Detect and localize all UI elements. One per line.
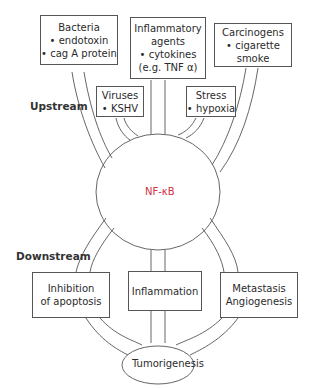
box-line: Inhibition	[48, 282, 95, 295]
box-line: Metastasis	[232, 282, 285, 295]
box-line: of apoptosis	[41, 295, 102, 308]
box-line: (e.g. TNF α)	[139, 61, 198, 74]
box-line: Carcinogens	[222, 26, 284, 39]
upstream-label: Upstream	[30, 100, 88, 112]
box-line: • hypoxia	[187, 102, 235, 115]
box-line: • cytokines	[140, 48, 197, 61]
downstream-label: Downstream	[16, 250, 91, 262]
tumorigenesis-label: Tumorigenesis	[132, 358, 204, 369]
box-line: Stress	[196, 89, 227, 102]
stress-box: Stress • hypoxia	[186, 86, 236, 117]
box-line: agents	[151, 35, 185, 48]
inflammatory-agents-box: Inflammatory agents • cytokines (e.g. TN…	[130, 17, 206, 79]
box-line: • endotoxin	[50, 34, 109, 47]
metastasis-angiogenesis-box: Metastasis Angiogenesis	[220, 272, 298, 318]
bacteria-box: Bacteria • endotoxin • cag A protein	[40, 15, 118, 65]
box-line: Viruses	[102, 89, 138, 102]
viruses-box: Viruses • KSHV	[96, 86, 144, 117]
box-line: • KSHV	[102, 102, 138, 115]
box-line: • cag A protein	[41, 47, 117, 60]
inhibition-of-apoptosis-box: Inhibition of apoptosis	[32, 272, 110, 318]
box-line: Inflammatory	[134, 22, 201, 35]
nfkb-label: NF-κB	[145, 186, 175, 197]
box-line: Inflammation	[132, 285, 198, 298]
carcinogens-box: Carcinogens • cigarette smoke	[214, 23, 292, 67]
box-line: smoke	[237, 52, 270, 65]
box-line: Angiogenesis	[226, 295, 293, 308]
box-line: • cigarette	[226, 39, 280, 52]
inflammation-box: Inflammation	[128, 271, 202, 311]
box-line: Bacteria	[58, 21, 100, 34]
